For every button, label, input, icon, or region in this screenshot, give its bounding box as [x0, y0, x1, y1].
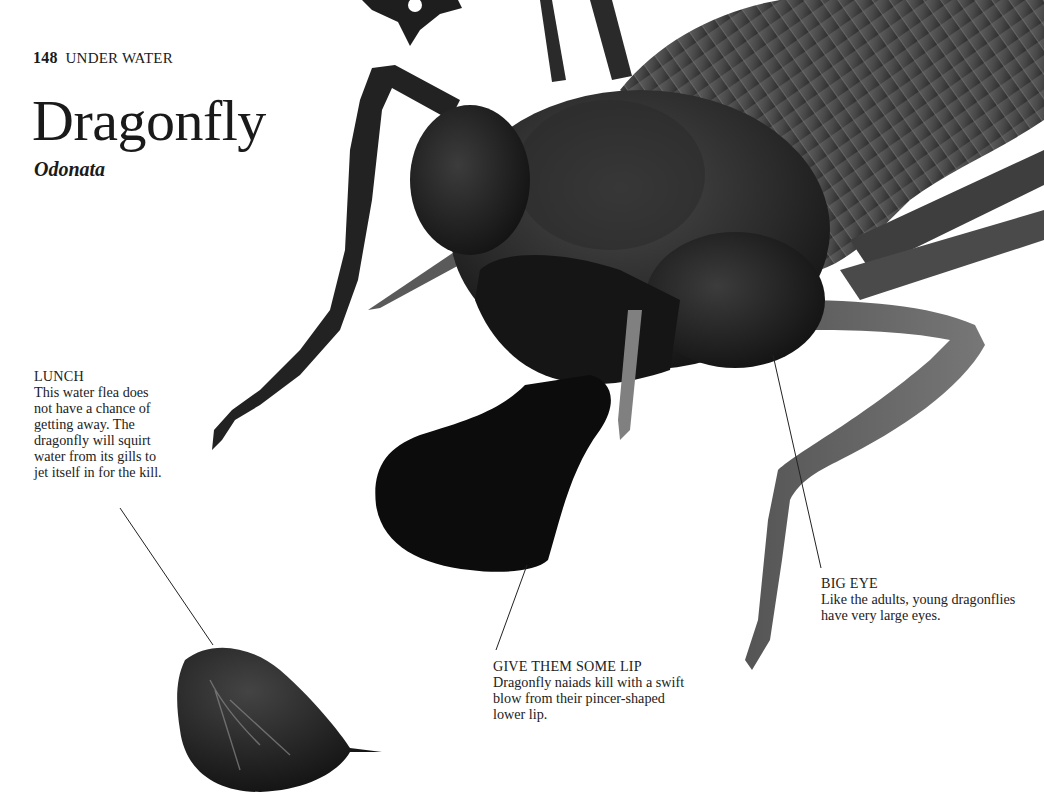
leader-line-lunch: [120, 508, 213, 645]
upper-leg-1: [540, 0, 566, 82]
caption-heading: BIG EYE: [821, 575, 1041, 591]
caption-text: Dragonfly naiads kill with a swift blow …: [493, 674, 684, 722]
caption-text: This water flea does not have a chance o…: [34, 384, 162, 480]
caption-heading: GIVE THEM SOME LIP: [493, 658, 693, 674]
running-head: 148 UNDER WATER: [33, 49, 173, 67]
section-title: UNDER WATER: [66, 50, 173, 66]
caption-text: Like the adults, young dragonflies have …: [821, 591, 1015, 623]
upper-leg-2: [590, 0, 632, 80]
caption-heading: LUNCH: [34, 368, 164, 384]
caption-lip: GIVE THEM SOME LIP Dragonfly naiads kill…: [493, 658, 693, 722]
head-crown: [515, 100, 705, 250]
lower-lip: [375, 375, 611, 572]
water-flea-illustration: [177, 648, 382, 792]
caption-eye: BIG EYE Like the adults, young dragonfli…: [821, 575, 1041, 623]
compound-eye-left: [410, 105, 530, 255]
caption-lunch: LUNCH This water flea does not have a ch…: [34, 368, 164, 480]
page-number: 148: [33, 49, 58, 66]
leader-line-lip: [496, 565, 527, 650]
page-title: Dragonfly: [32, 92, 266, 150]
scientific-name: Odonata: [34, 158, 105, 181]
